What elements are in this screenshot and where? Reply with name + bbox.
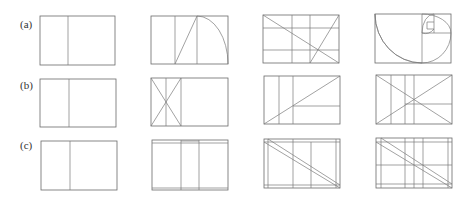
panel-frame	[41, 141, 117, 190]
construction-arc	[197, 16, 228, 64]
panel-frame	[151, 78, 228, 126]
panel-frame	[40, 16, 115, 65]
panel-c-4	[376, 138, 452, 188]
construction-arc	[375, 14, 422, 63]
panel-b-1	[40, 79, 116, 127]
panel-c-1	[41, 141, 117, 190]
construction-line	[381, 138, 452, 184]
panel-b-3	[264, 76, 340, 124]
row-label-b: (b)	[20, 80, 33, 91]
row-label-c: (c)	[20, 140, 32, 151]
construction-line	[264, 142, 340, 188]
proportion-diagram-figure: (a) (b) (c)	[0, 0, 472, 197]
construction-arc	[422, 14, 434, 33]
panel-frame	[40, 79, 116, 127]
construction-arc	[422, 14, 451, 33]
panel-b-2	[151, 78, 228, 126]
panel-b-4	[376, 75, 452, 124]
panel-a-3	[263, 15, 339, 63]
construction-arc	[422, 33, 451, 63]
panel-frame	[152, 140, 228, 190]
panel-a-4	[375, 14, 451, 63]
construction-line	[263, 15, 339, 63]
panel-a-2	[151, 16, 228, 64]
construction-line	[264, 76, 340, 124]
construction-grid-diagram	[0, 0, 472, 197]
panel-frame	[375, 14, 451, 63]
panel-a-1	[40, 16, 115, 65]
panel-frame	[264, 139, 340, 188]
panel-c-2	[152, 140, 228, 190]
construction-line	[268, 139, 340, 185]
construction-line	[175, 16, 197, 64]
panel-c-3	[264, 139, 340, 188]
construction-line	[310, 15, 339, 63]
panel-frame	[151, 16, 228, 64]
row-label-a: (a)	[20, 19, 32, 30]
construction-arc	[375, 14, 422, 63]
